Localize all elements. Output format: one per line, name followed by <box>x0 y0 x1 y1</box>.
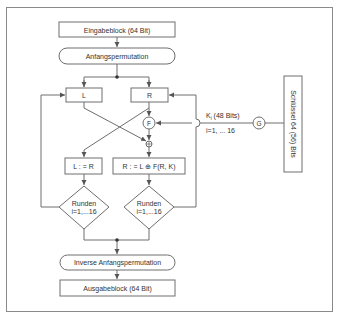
assign-left-label: L : = R <box>73 163 94 170</box>
rounds-left-line2: i=1,...16 <box>71 208 96 215</box>
input-block-label: Eingabeblock (64 Bit) <box>84 27 151 35</box>
output-block-label: Ausgabeblock (64 Bit) <box>83 285 151 293</box>
initial-permutation-label: Anfangspermutation <box>86 53 149 61</box>
left-half-label: L <box>82 92 86 99</box>
edge-loop-left <box>41 95 65 207</box>
right-half-label: R <box>147 92 152 99</box>
edge-loop-right <box>169 95 200 207</box>
split-junction <box>115 75 119 79</box>
subkey-label: Ki (48 Bits) <box>206 112 240 121</box>
rounds-right-line2: i=1,...16 <box>136 208 161 215</box>
assign-right-label: R : = L ⊕ F(R, K) <box>123 163 176 171</box>
f-function-label: F <box>147 120 151 127</box>
subkey-size: (48 Bits) <box>212 112 240 120</box>
key-generator-label: G <box>256 120 261 127</box>
merge-junction <box>115 238 119 242</box>
rounds-right-line1: Runden <box>137 200 162 207</box>
edge-r-to-assign-left <box>84 108 149 157</box>
subkey-range-label: i=1, ... 16 <box>206 127 235 134</box>
key-label: Schlüssel 64 (56) Bits <box>289 90 297 158</box>
des-flowchart: Eingabeblock (64 Bit) Anfangspermutation… <box>0 0 338 317</box>
edge-l-to-xor <box>84 102 146 141</box>
rounds-left-line1: Runden <box>72 200 97 207</box>
inverse-permutation-label: Inverse Anfangspermutation <box>74 259 161 267</box>
